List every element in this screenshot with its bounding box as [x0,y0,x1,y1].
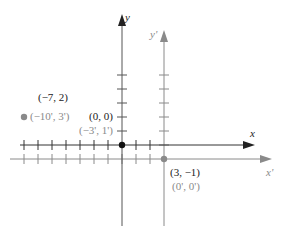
point-p1-prime-label: (−10', 3') [30,111,70,122]
coordinate-diagram: y y' x x' (−7, 2) (−10', 3') (0, 0) (−3'… [0,0,283,236]
point-origin-dot [119,142,125,148]
y-prime-arrowhead-icon [160,30,168,42]
x-prime-axis-label: x' [266,167,273,178]
x-axis [20,140,248,150]
point-origin-prime-label: (−3', 1') [79,125,113,136]
point-new-origin-label: (3, −1) [170,167,200,178]
point-new-origin-dot [161,156,167,162]
y-prime-axis-label: y' [150,29,157,40]
x-prime-arrowhead-icon [260,155,272,163]
point-new-origin-prime-label: (0', 0') [172,181,200,192]
y-axis-label: y [125,12,130,23]
y-prime-axis [159,38,169,226]
x-arrowhead-icon [243,141,255,149]
x-prime-axis [10,154,266,164]
point-p1-dot [21,114,27,120]
x-axis-label: x [250,128,255,139]
point-origin-label: (0, 0) [89,111,113,122]
point-p1-label: (−7, 2) [38,92,68,103]
y-axis [117,22,127,226]
